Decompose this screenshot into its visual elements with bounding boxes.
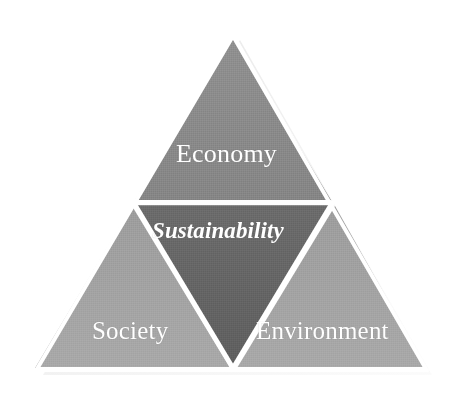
region-economy: [135, 37, 331, 200]
triangle-graphic: [0, 0, 467, 401]
region-label-economy: Economy: [176, 141, 277, 167]
region-label-society: Society: [92, 318, 168, 343]
sustainability-triangle-diagram: Economy Sustainability Society Environme…: [0, 0, 467, 401]
region-label-sustainability: Sustainability: [152, 219, 284, 242]
region-label-environment: Environment: [256, 318, 389, 343]
